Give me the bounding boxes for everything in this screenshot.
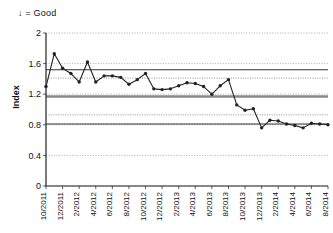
data-point [318, 122, 321, 125]
x-tick-label: 6/2012 [105, 191, 114, 216]
data-point [69, 72, 72, 75]
data-point [160, 88, 163, 91]
x-tick-label: 6/2014 [304, 191, 313, 216]
x-tick-label: 4/2014 [288, 191, 297, 216]
data-point [77, 80, 80, 83]
data-point [310, 122, 313, 125]
x-tick-label: 12/2011 [56, 191, 65, 220]
axis-lines [46, 33, 328, 186]
y-tick-label: 0 [36, 181, 41, 191]
x-tick-label: 10/2011 [39, 191, 48, 220]
x-tick-label: 12/2012 [155, 191, 164, 220]
gridlines-group [46, 33, 328, 186]
data-point [268, 119, 271, 122]
series-line [46, 54, 328, 128]
data-point [293, 124, 296, 127]
data-point [285, 122, 288, 125]
data-point [144, 72, 147, 75]
data-point [243, 109, 246, 112]
data-point [44, 85, 47, 88]
x-tick-label: 4/2012 [89, 191, 98, 216]
data-point [119, 76, 122, 79]
data-point [185, 81, 188, 84]
data-point [127, 83, 130, 86]
data-point [235, 103, 238, 106]
data-point [326, 123, 329, 126]
data-point [61, 66, 64, 69]
x-axis-ticks: 10/201112/20112/20124/20126/20128/201210… [39, 186, 330, 221]
y-tick-label: 0.4 [28, 151, 41, 161]
x-tick-label: 10/2012 [139, 191, 148, 220]
x-tick-label: 2/2012 [72, 191, 81, 216]
y-axis-ticks: 00.40.81.21.62 [28, 28, 46, 191]
data-point [94, 80, 97, 83]
data-point [277, 119, 280, 122]
y-tick-label: 2 [36, 28, 41, 38]
data-point [86, 60, 89, 63]
data-point [218, 84, 221, 87]
limit-lines-group [46, 70, 328, 124]
data-point [210, 93, 213, 96]
y-tick-label: 1.2 [28, 89, 41, 99]
data-point [227, 78, 230, 81]
data-point [136, 78, 139, 81]
data-point [252, 107, 255, 110]
x-tick-label: 10/2013 [238, 191, 247, 220]
data-point [53, 52, 56, 55]
x-tick-label: 4/2013 [188, 191, 197, 216]
data-point [301, 126, 304, 129]
x-tick-label: 8/2012 [122, 191, 131, 216]
control-chart: ↓ = Good Index 00.40.81.21.62 10/201112/… [0, 0, 333, 233]
x-tick-label: 2/2014 [271, 191, 280, 216]
data-point [202, 85, 205, 88]
data-point [260, 126, 263, 129]
x-tick-label: 2/2013 [172, 191, 181, 216]
data-point [111, 74, 114, 77]
data-point [194, 82, 197, 85]
x-tick-label: 6/2013 [205, 191, 214, 216]
data-point [177, 84, 180, 87]
data-point [169, 87, 172, 90]
x-tick-label: 8/2014 [321, 191, 330, 216]
plot-area: 00.40.81.21.62 10/201112/20112/20124/201… [0, 0, 333, 233]
data-point [102, 74, 105, 77]
x-tick-label: 12/2013 [255, 191, 264, 220]
x-tick-label: 8/2013 [221, 191, 230, 216]
data-point [152, 87, 155, 90]
y-tick-label: 1.6 [28, 59, 41, 69]
y-tick-label: 0.8 [28, 120, 41, 130]
